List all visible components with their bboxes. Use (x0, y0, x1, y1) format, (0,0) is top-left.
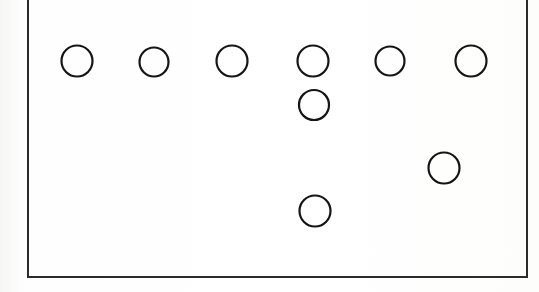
circle-node-n4 (298, 46, 329, 77)
diagram-page (0, 0, 539, 292)
circle-node-n1 (62, 46, 93, 77)
circle-node-layer (0, 0, 539, 292)
circle-node-n5 (376, 47, 405, 76)
circle-node-n3 (217, 46, 248, 77)
circle-node-n6 (456, 46, 487, 77)
node-group (62, 46, 487, 227)
circle-node-n9 (300, 196, 331, 227)
circle-node-n7 (299, 90, 329, 120)
circle-node-n8 (429, 153, 460, 184)
circle-node-n2 (140, 48, 169, 77)
